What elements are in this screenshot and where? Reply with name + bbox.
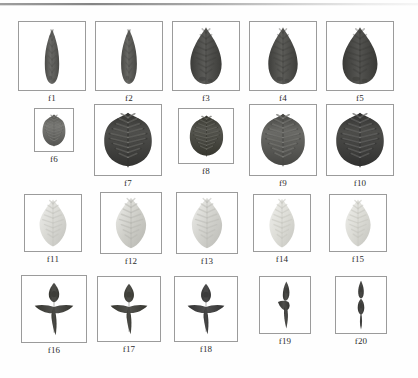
leaf-silhouette-icon <box>336 277 386 333</box>
specimen-caption: f2 <box>95 93 163 103</box>
specimen-caption: f17 <box>97 344 161 354</box>
specimen-image-frame[interactable] <box>249 21 317 91</box>
specimen-caption: f6 <box>34 154 74 164</box>
specimen-caption: f9 <box>249 178 317 188</box>
specimen-caption: f10 <box>326 178 394 188</box>
leaf-silhouette-icon <box>22 276 86 342</box>
specimen-image-frame[interactable] <box>253 194 311 252</box>
specimen-cell: f8 <box>178 108 234 177</box>
specimen-cell: f12 <box>100 192 162 267</box>
specimen-cell: f15 <box>329 194 387 265</box>
specimen-caption: f18 <box>174 344 238 354</box>
specimen-image-frame[interactable] <box>95 21 163 91</box>
specimen-cell: f14 <box>253 194 311 265</box>
specimen-cell: f6 <box>34 108 74 165</box>
specimen-cell: f2 <box>95 21 163 104</box>
specimen-cell: f18 <box>174 276 238 355</box>
leaf-silhouette-icon <box>327 105 393 175</box>
specimen-cell: f16 <box>21 275 87 356</box>
leaf-silhouette-icon <box>250 22 316 90</box>
specimen-caption: f14 <box>253 254 311 264</box>
specimen-cell: f19 <box>259 276 311 347</box>
leaf-silhouette-icon <box>260 277 310 333</box>
specimen-image-frame[interactable] <box>326 104 394 176</box>
specimen-cell: f13 <box>176 192 238 267</box>
specimen-image-frame[interactable] <box>178 108 234 164</box>
specimen-image-frame[interactable] <box>18 21 86 91</box>
specimen-image-frame[interactable] <box>94 104 162 176</box>
specimen-caption: f5 <box>326 93 394 103</box>
leaf-silhouette-icon <box>35 109 73 151</box>
specimen-caption: f8 <box>178 166 234 176</box>
specimen-caption: f12 <box>100 256 162 266</box>
leaf-silhouette-icon <box>177 193 237 253</box>
specimen-cell: f5 <box>326 21 394 104</box>
leaf-silhouette-icon <box>175 277 237 341</box>
leaf-silhouette-icon <box>330 195 386 251</box>
leaf-silhouette-icon <box>25 195 81 251</box>
specimen-image-frame[interactable] <box>249 104 317 176</box>
specimen-cell: f17 <box>97 276 161 355</box>
specimen-cell: f10 <box>326 104 394 189</box>
specimen-cell: f11 <box>24 194 82 265</box>
leaf-silhouette-icon <box>96 22 162 90</box>
specimen-cell: f20 <box>335 276 387 347</box>
specimen-image-frame[interactable] <box>329 194 387 252</box>
specimen-image-frame[interactable] <box>34 108 74 152</box>
specimen-caption: f7 <box>94 178 162 188</box>
specimen-image-frame[interactable] <box>259 276 311 334</box>
specimen-caption: f15 <box>329 254 387 264</box>
leaf-silhouette-icon <box>179 109 233 163</box>
leaf-silhouette-icon <box>98 277 160 341</box>
specimen-cell: f1 <box>18 21 86 104</box>
specimen-caption: f4 <box>249 93 317 103</box>
specimen-image-frame[interactable] <box>21 275 87 343</box>
leaf-silhouette-icon <box>327 22 393 90</box>
specimen-cell: f3 <box>172 21 240 104</box>
specimen-cell: f4 <box>249 21 317 104</box>
specimen-image-frame[interactable] <box>97 276 161 342</box>
specimen-caption: f19 <box>259 336 311 346</box>
leaf-silhouette-icon <box>101 193 161 253</box>
specimen-caption: f1 <box>18 93 86 103</box>
scan-edge-line-secondary <box>0 5 418 6</box>
leaf-silhouette-icon <box>254 195 310 251</box>
specimen-image-frame[interactable] <box>335 276 387 334</box>
leaf-silhouette-icon <box>95 105 161 175</box>
specimen-image-frame[interactable] <box>174 276 238 342</box>
figure-sheet: f1f2f3f4f5f6f7f8f9f10f11f12f13f14f15f16f… <box>0 0 418 378</box>
leaf-silhouette-icon <box>173 22 239 90</box>
specimen-image-frame[interactable] <box>24 194 82 252</box>
specimen-caption: f13 <box>176 256 238 266</box>
specimen-image-frame[interactable] <box>326 21 394 91</box>
leaf-silhouette-icon <box>19 22 85 90</box>
specimen-image-frame[interactable] <box>172 21 240 91</box>
specimen-caption: f16 <box>21 345 87 355</box>
leaf-silhouette-icon <box>250 105 316 175</box>
specimen-cell: f7 <box>94 104 162 189</box>
specimen-caption: f20 <box>335 336 387 346</box>
specimen-caption: f11 <box>24 254 82 264</box>
specimen-cell: f9 <box>249 104 317 189</box>
specimen-caption: f3 <box>172 93 240 103</box>
specimen-image-frame[interactable] <box>176 192 238 254</box>
specimen-image-frame[interactable] <box>100 192 162 254</box>
